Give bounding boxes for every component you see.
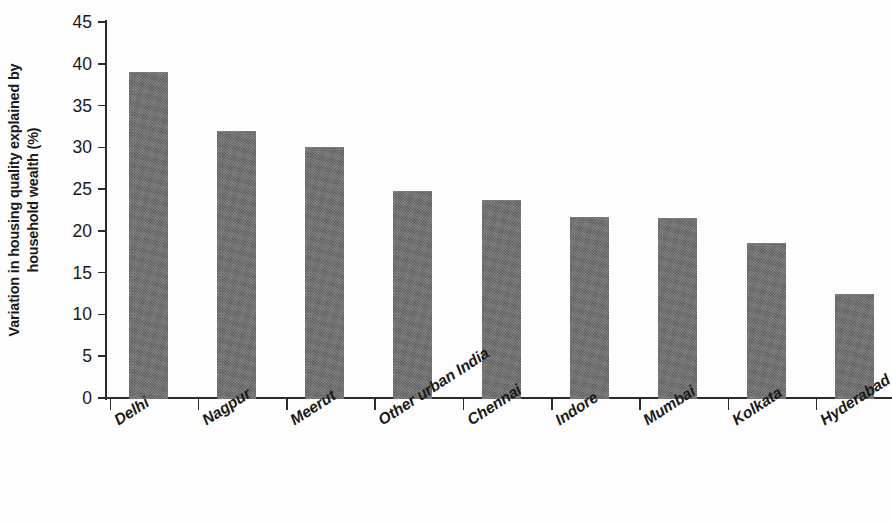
bar [305,147,344,399]
x-tick-mark [551,399,553,410]
x-tick-mark [374,399,376,410]
bar [482,200,521,399]
y-tick-label: 10 [52,304,92,325]
y-tick-label: 15 [52,262,92,283]
y-tick-mark [98,272,106,274]
y-tick-label: 20 [52,220,92,241]
y-tick-mark [98,188,106,190]
bar [658,218,697,399]
y-tick-mark [98,355,106,357]
bar [129,72,168,399]
y-tick-label: 30 [52,137,92,158]
y-tick-label: 45 [52,12,92,33]
x-tick-mark [463,399,465,410]
x-tick-mark [286,399,288,410]
x-tick-mark [728,399,730,410]
x-tick-mark [198,399,200,410]
y-tick-mark [98,21,106,23]
y-axis-title-line-1: Variation in housing quality explained b… [6,64,22,337]
y-tick-mark [98,63,106,65]
y-tick-mark [98,105,106,107]
y-tick-mark [98,314,106,316]
y-tick-label: 40 [52,53,92,74]
y-tick-label: 0 [52,388,92,409]
bar [570,217,609,399]
bar [747,243,786,399]
y-tick-label: 25 [52,179,92,200]
y-tick-mark [98,230,106,232]
y-axis-title: Variation in housing quality explained b… [0,0,48,400]
y-tick-label: 35 [52,95,92,116]
x-tick-mark [110,399,112,410]
bar [393,191,432,399]
x-tick-mark [639,399,641,410]
y-axis-spine [105,20,107,400]
y-tick-mark [98,397,106,399]
y-tick-label: 5 [52,346,92,367]
bar [217,131,256,399]
bar-chart-figure: Variation in housing quality explained b… [0,0,892,523]
y-axis-title-line-2: household wealth (%) [24,64,43,337]
x-tick-mark [816,399,818,410]
y-tick-mark [98,147,106,149]
